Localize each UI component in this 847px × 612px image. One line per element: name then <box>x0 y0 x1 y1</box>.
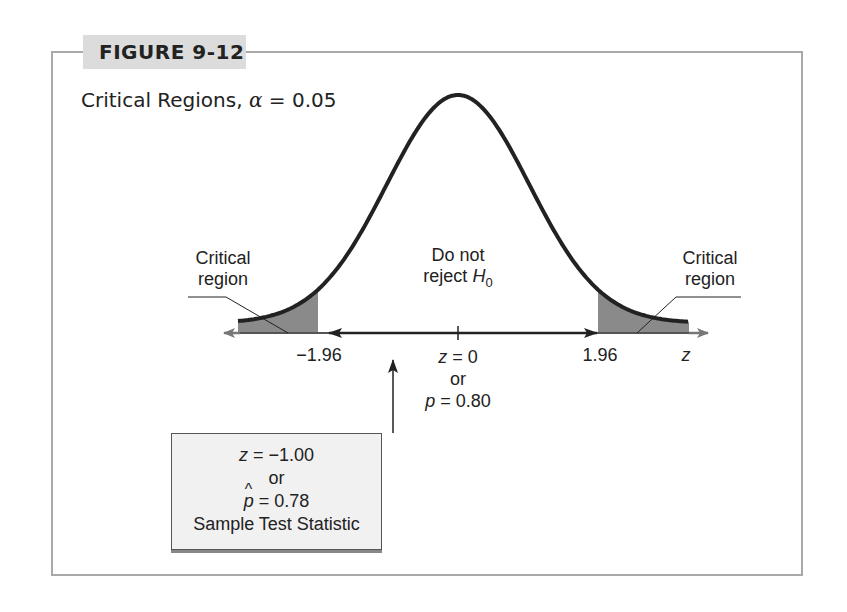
center-value-label: z = 0 or p = 0.80 <box>398 346 518 412</box>
p-hat-symbol: p <box>244 490 254 513</box>
right-critical-value: 1.96 <box>570 345 630 366</box>
do-not-reject-label: Do not reject H0 <box>398 245 518 293</box>
normal-curve-plot <box>0 0 847 612</box>
right-critical-region-label: Critical region <box>670 248 750 290</box>
left-critical-value: −1.96 <box>284 345 354 366</box>
critical-region-shading <box>238 290 689 333</box>
axis-variable-label: z <box>676 345 696 366</box>
left-critical-region-label: Critical region <box>183 248 263 290</box>
stat-caption: Sample Test Statistic <box>172 513 381 536</box>
sample-test-statistic-box: z = −1.00 or p = 0.78 Sample Test Statis… <box>171 433 382 550</box>
